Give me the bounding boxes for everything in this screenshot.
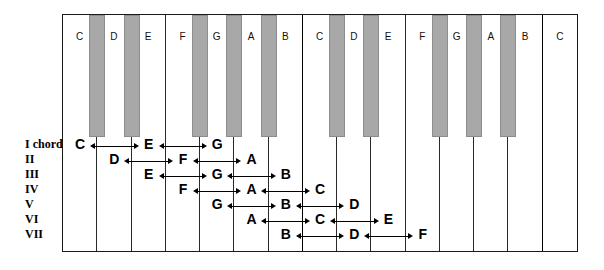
chord-note-label: C <box>315 210 325 228</box>
black-key-gsharp-8[interactable] <box>466 15 482 137</box>
arrow-shaft <box>197 191 238 192</box>
chord-numeral: V <box>25 197 73 212</box>
chord-note-label: F <box>419 225 428 243</box>
interval-arrow <box>296 233 345 240</box>
black-key-fsharp-7[interactable] <box>432 15 448 137</box>
chord-numeral: VI <box>25 212 73 227</box>
arrow-right-head-icon <box>202 143 207 149</box>
interval-arrow <box>193 158 242 165</box>
arrow-shaft <box>368 236 409 237</box>
arrow-shaft <box>300 206 341 207</box>
chord-row-7: VIIBDF <box>0 227 604 242</box>
chord-note-label: A <box>246 180 256 198</box>
interval-arrow <box>261 218 310 225</box>
chord-note-label: E <box>144 135 153 153</box>
chord-note-label: D <box>349 225 359 243</box>
chord-row-5: VGBD <box>0 197 604 212</box>
arrow-shaft <box>128 161 169 162</box>
black-key-dsharp-1[interactable] <box>124 15 140 137</box>
black-key-csharp-0[interactable] <box>89 15 105 137</box>
interval-arrow <box>296 203 345 210</box>
interval-arrow <box>159 143 208 150</box>
arrow-shaft <box>334 221 375 222</box>
black-key-asharp-4[interactable] <box>261 15 277 137</box>
interval-arrow <box>330 218 379 225</box>
arrow-right-head-icon <box>408 233 413 239</box>
chord-numeral: IV <box>25 182 73 197</box>
black-key-dsharp-6[interactable] <box>363 15 379 137</box>
interval-arrow <box>364 233 413 240</box>
interval-arrow <box>124 158 173 165</box>
chord-row-6: VIACE <box>0 212 604 227</box>
arrow-right-head-icon <box>236 188 241 194</box>
arrow-shaft <box>300 236 341 237</box>
chord-note-label: G <box>212 195 223 213</box>
arrow-shaft <box>231 206 272 207</box>
black-key-csharp-5[interactable] <box>329 15 345 137</box>
arrow-right-head-icon <box>305 218 310 224</box>
arrow-right-head-icon <box>134 143 139 149</box>
arrow-right-head-icon <box>271 203 276 209</box>
black-key-asharp-9[interactable] <box>500 15 516 137</box>
arrow-right-head-icon <box>339 233 344 239</box>
interval-arrow <box>261 188 310 195</box>
arrow-shaft <box>197 161 238 162</box>
chord-note-label: C <box>75 135 85 153</box>
arrow-right-head-icon <box>236 158 241 164</box>
arrow-right-head-icon <box>339 203 344 209</box>
chord-note-label: A <box>246 150 256 168</box>
chord-row-2: IIDFA <box>0 152 604 167</box>
chord-note-label: D <box>109 150 119 168</box>
chord-note-label: D <box>349 195 359 213</box>
arrow-shaft <box>231 176 272 177</box>
arrow-shaft <box>265 221 306 222</box>
chord-numeral: II <box>25 152 73 167</box>
arrow-right-head-icon <box>271 173 276 179</box>
interval-arrow <box>193 188 242 195</box>
chord-row-1: I chordCEG <box>0 137 604 152</box>
chord-note-label: C <box>315 180 325 198</box>
arrow-right-head-icon <box>305 188 310 194</box>
chord-note-label: F <box>179 150 188 168</box>
chord-diagram-figure: CDEFGABCDEFGABC I chordCEGIIDFAIIIEGBIVF… <box>0 0 604 270</box>
chord-note-label: F <box>179 180 188 198</box>
arrow-right-head-icon <box>202 173 207 179</box>
chord-note-label: G <box>212 135 223 153</box>
chord-note-label: B <box>281 195 291 213</box>
arrow-shaft <box>163 176 204 177</box>
interval-arrow <box>227 173 276 180</box>
chord-rows: I chordCEGIIDFAIIIEGBIVFACVGBDVIACEVIIBD… <box>0 137 604 252</box>
chord-note-label: B <box>281 165 291 183</box>
arrow-right-head-icon <box>168 158 173 164</box>
arrow-shaft <box>94 146 135 147</box>
chord-note-label: E <box>384 210 393 228</box>
chord-note-label: E <box>144 165 153 183</box>
chord-numeral: III <box>25 167 73 182</box>
interval-arrow <box>227 203 276 210</box>
black-key-gsharp-3[interactable] <box>226 15 242 137</box>
arrow-shaft <box>265 191 306 192</box>
arrow-right-head-icon <box>374 218 379 224</box>
chord-numeral: VII <box>25 227 73 242</box>
chord-note-label: G <box>212 165 223 183</box>
arrow-shaft <box>163 146 204 147</box>
chord-note-label: B <box>281 225 291 243</box>
white-key-label: C <box>543 31 577 42</box>
chord-row-4: IVFAC <box>0 182 604 197</box>
black-key-fsharp-2[interactable] <box>192 15 208 137</box>
interval-arrow <box>159 173 208 180</box>
interval-arrow <box>90 143 139 150</box>
chord-note-label: A <box>246 210 256 228</box>
chord-row-3: IIIEGB <box>0 167 604 182</box>
